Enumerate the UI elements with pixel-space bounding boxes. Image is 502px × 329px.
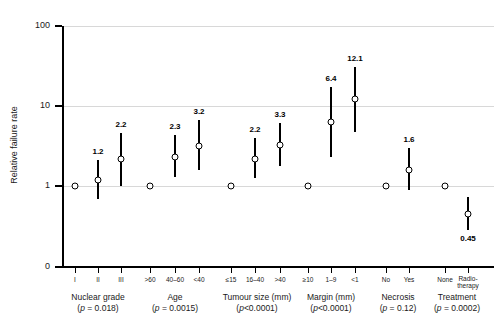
value-label: 1.6 bbox=[403, 136, 414, 144]
x-tick-1-1 bbox=[175, 268, 176, 273]
x-tick-label-1-0: >60 bbox=[144, 276, 155, 283]
y-tick-10 bbox=[55, 105, 62, 107]
value-label: 1.2 bbox=[92, 148, 103, 156]
gridline-1 bbox=[64, 186, 494, 187]
group-caption: Treatment(p = 0.0002) bbox=[434, 292, 480, 314]
y-axis-line bbox=[62, 26, 64, 267]
y-tick-label-100: 100 bbox=[20, 21, 50, 30]
x-tick-label-4-1: Yes bbox=[404, 276, 415, 283]
x-tick-3-1 bbox=[331, 268, 332, 273]
y-tick-100 bbox=[55, 25, 62, 27]
x-tick-label-3-0: ≥10 bbox=[303, 276, 314, 283]
group-pvalue: (p = 0.018) bbox=[71, 303, 124, 314]
y-tick-label-0: 0 bbox=[20, 262, 50, 271]
group-name: Margin (mm) bbox=[307, 292, 355, 303]
value-label: 2.3 bbox=[169, 123, 180, 131]
value-label: 0.45 bbox=[460, 235, 476, 243]
group-name: Treatment bbox=[434, 292, 480, 303]
estimate-marker bbox=[352, 96, 359, 103]
estimate-marker bbox=[118, 155, 125, 162]
estimate-marker bbox=[172, 154, 179, 161]
x-tick-2-1 bbox=[255, 268, 256, 273]
group-pvalue: (p<0.0001) bbox=[223, 303, 292, 314]
x-tick-0-0 bbox=[75, 268, 76, 273]
y-tick-label-1: 1 bbox=[20, 181, 50, 190]
x-tick-label-2-1: 16–40 bbox=[246, 276, 264, 283]
y-tick-label-10: 10 bbox=[20, 101, 50, 110]
x-tick-1-2 bbox=[199, 268, 200, 273]
y-axis-title: Relative failure rate bbox=[9, 90, 19, 200]
value-label: 3.3 bbox=[274, 111, 285, 119]
estimate-marker bbox=[95, 176, 102, 183]
gridline-10 bbox=[64, 106, 494, 107]
estimate-marker bbox=[252, 155, 259, 162]
x-tick-label-3-1: 1–9 bbox=[326, 276, 337, 283]
group-pvalue: (p<0.0001) bbox=[307, 303, 355, 314]
x-tick-2-0 bbox=[231, 268, 232, 273]
reference-marker bbox=[72, 183, 79, 190]
x-tick-label-5-0: None bbox=[437, 276, 453, 283]
y-tick-0 bbox=[55, 266, 62, 268]
group-name: Age bbox=[152, 292, 198, 303]
x-tick-label-2-2: >40 bbox=[274, 276, 285, 283]
group-pvalue: (p = 0.0015) bbox=[152, 303, 198, 314]
group-caption: Nuclear grade(p = 0.018) bbox=[71, 292, 124, 314]
group-pvalue: (p = 0.12) bbox=[380, 303, 417, 314]
x-tick-label-5-1: Radio-therapy bbox=[457, 276, 479, 289]
group-caption: Necrosis(p = 0.12) bbox=[380, 292, 417, 314]
group-caption: Margin (mm)(p<0.0001) bbox=[307, 292, 355, 314]
estimate-marker bbox=[465, 210, 472, 217]
value-label: 12.1 bbox=[347, 55, 363, 63]
x-tick-label-0-1: II bbox=[96, 276, 100, 283]
reference-marker bbox=[305, 183, 312, 190]
group-caption: Age(p = 0.0015) bbox=[152, 292, 198, 314]
group-pvalue: (p = 0.0002) bbox=[434, 303, 480, 314]
reference-marker bbox=[383, 183, 390, 190]
x-tick-label-1-1: 40–60 bbox=[166, 276, 184, 283]
x-tick-1-0 bbox=[150, 268, 151, 273]
value-label: 3.2 bbox=[193, 108, 204, 116]
x-tick-5-1 bbox=[468, 268, 469, 273]
x-tick-label-2-0: ≤15 bbox=[226, 276, 237, 283]
value-label: 2.2 bbox=[115, 121, 126, 129]
x-tick-label-1-2: <40 bbox=[193, 276, 204, 283]
group-name: Nuclear grade bbox=[71, 292, 124, 303]
estimate-marker bbox=[406, 166, 413, 173]
x-tick-0-2 bbox=[121, 268, 122, 273]
x-tick-4-0 bbox=[386, 268, 387, 273]
estimate-marker bbox=[328, 118, 335, 125]
y-tick-1 bbox=[55, 185, 62, 187]
forest-plot-chart: 1001010 Relative failure rate IIIIII>604… bbox=[0, 0, 502, 329]
group-name: Necrosis bbox=[380, 292, 417, 303]
x-tick-label-0-2: III bbox=[118, 276, 123, 283]
estimate-marker bbox=[196, 142, 203, 149]
x-tick-4-1 bbox=[409, 268, 410, 273]
reference-marker bbox=[147, 183, 154, 190]
estimate-marker bbox=[277, 141, 284, 148]
x-tick-2-2 bbox=[280, 268, 281, 273]
x-tick-3-2 bbox=[355, 268, 356, 273]
gridline-100 bbox=[64, 26, 494, 27]
x-tick-label-3-2: <1 bbox=[351, 276, 358, 283]
x-tick-5-0 bbox=[445, 268, 446, 273]
value-label: 6.4 bbox=[325, 75, 336, 83]
x-tick-label-0-0: I bbox=[74, 276, 76, 283]
group-name: Tumour size (mm) bbox=[223, 292, 292, 303]
value-label: 2.2 bbox=[249, 126, 260, 134]
x-axis-line bbox=[62, 266, 494, 268]
reference-marker bbox=[442, 183, 449, 190]
x-tick-label-4-0: No bbox=[382, 276, 390, 283]
reference-marker bbox=[228, 183, 235, 190]
x-tick-0-1 bbox=[98, 268, 99, 273]
group-caption: Tumour size (mm)(p<0.0001) bbox=[223, 292, 292, 314]
x-tick-3-0 bbox=[308, 268, 309, 273]
